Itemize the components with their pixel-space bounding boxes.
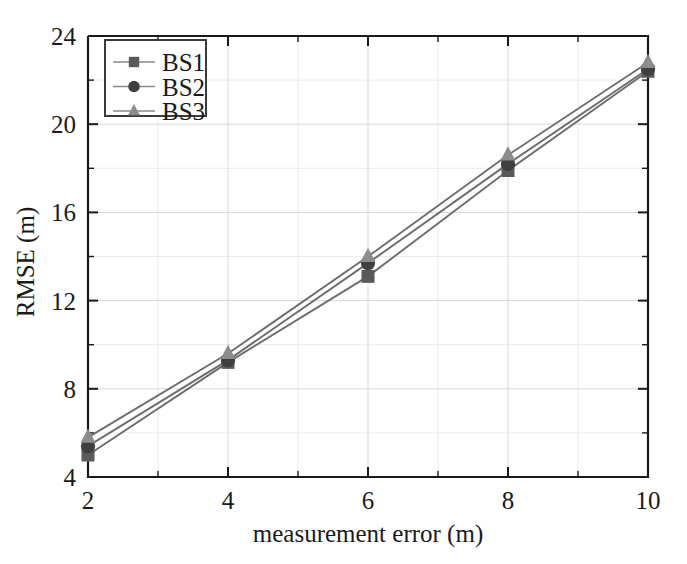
y-tick-label: 24	[51, 23, 77, 50]
legend-label-bs1: BS1	[162, 49, 205, 76]
legend-marker-bs2	[128, 81, 140, 93]
legend-label-bs3: BS3	[162, 98, 205, 125]
chart-background	[0, 0, 687, 564]
chart-legend: BS1BS2BS3	[105, 40, 206, 125]
y-tick-label: 12	[51, 288, 76, 315]
x-axis-title: measurement error (m)	[253, 520, 483, 548]
x-tick-label: 8	[502, 487, 515, 514]
x-tick-label: 4	[222, 487, 235, 514]
y-tick-label: 8	[64, 376, 77, 403]
y-tick-label: 20	[51, 111, 76, 138]
y-tick-label: 16	[51, 199, 76, 226]
y-axis-title: RMSE (m)	[12, 207, 40, 317]
legend-marker-bs1	[129, 57, 139, 67]
rmse-vs-measurement-error-chart: 246810 4812162024 measurement error (m) …	[0, 0, 687, 564]
legend-label-bs2: BS2	[162, 74, 205, 101]
data-point-bs1-6	[362, 270, 375, 283]
y-tick-label: 4	[64, 464, 77, 491]
x-tick-label: 2	[82, 487, 95, 514]
x-tick-label: 10	[636, 487, 661, 514]
chart-figure: 246810 4812162024 measurement error (m) …	[0, 0, 687, 564]
x-tick-label: 6	[362, 487, 375, 514]
